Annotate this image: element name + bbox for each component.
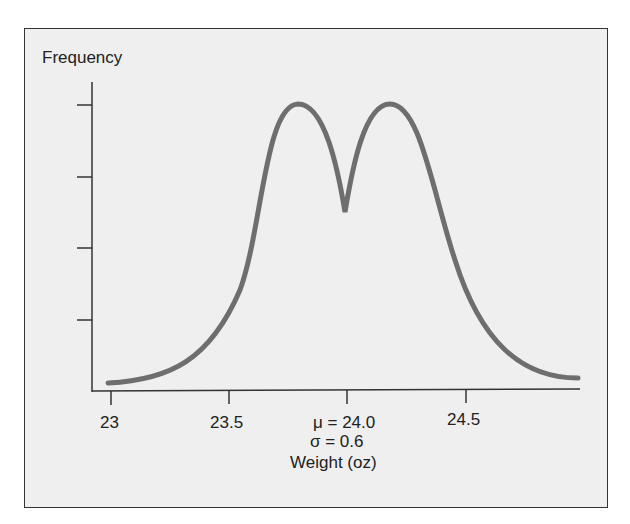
sigma-annotation: σ = 0.6 xyxy=(310,432,364,452)
x-axis xyxy=(92,389,580,391)
y-axis-label: Frequency xyxy=(42,48,122,68)
distribution-curve xyxy=(108,104,578,383)
x-ticks xyxy=(111,390,466,405)
mu-annotation: μ = 24.0 xyxy=(313,413,375,433)
x-tick-label-23: 23 xyxy=(100,413,119,433)
x-axis-label: Weight (oz) xyxy=(290,453,377,473)
y-ticks xyxy=(77,105,92,320)
x-tick-label-23-5: 23.5 xyxy=(210,413,243,433)
x-tick-label-24-5: 24.5 xyxy=(447,410,480,430)
